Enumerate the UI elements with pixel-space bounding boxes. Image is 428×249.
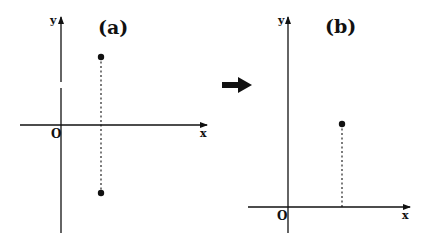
point-a-lower — [98, 190, 104, 196]
right-arrow-icon — [222, 77, 252, 93]
panel-b-title: (b) — [325, 15, 356, 37]
diagram-canvas: (a) y x O (b) y x O — [0, 0, 428, 249]
origin-label-a: O — [51, 127, 61, 141]
panel-b: (b) y x O — [248, 14, 410, 233]
origin-label-b: O — [277, 209, 287, 223]
point-a-upper — [98, 54, 104, 60]
point-b — [339, 121, 345, 127]
panel-a: (a) y x O — [20, 14, 207, 233]
y-axis-label-a: y — [49, 14, 57, 27]
panel-a-title: (a) — [98, 16, 128, 38]
y-axis-label-b: y — [277, 14, 285, 27]
x-axis-label-a: x — [200, 127, 207, 140]
x-axis-label-b: x — [402, 209, 409, 222]
